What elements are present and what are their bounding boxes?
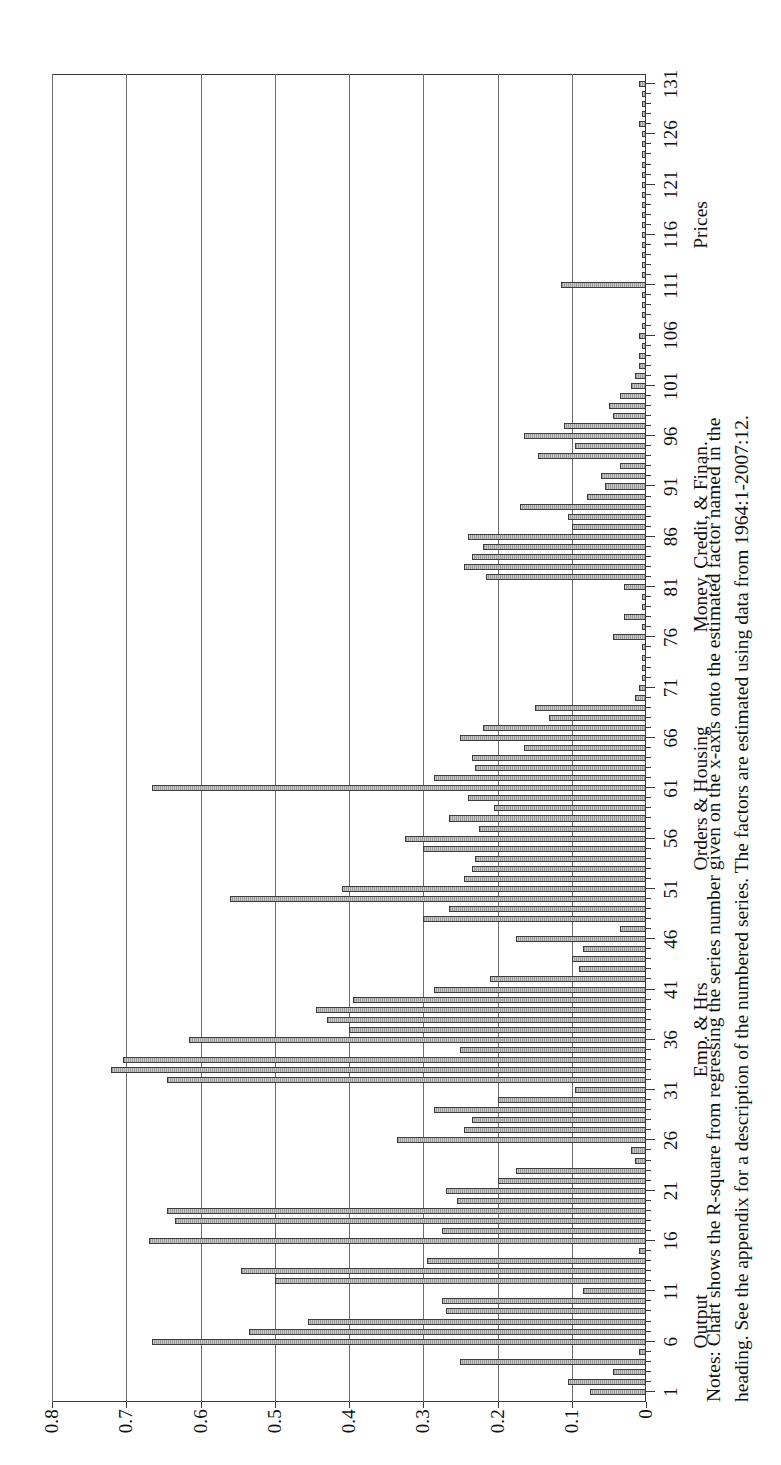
x-tick-mark [646,1270,651,1271]
x-tick-mark [646,496,651,497]
bar [520,504,646,510]
bar [535,705,646,711]
x-tick-label: 6 [660,1337,682,1347]
bar [568,514,646,520]
bar [494,805,646,811]
x-tick-label: 41 [660,980,682,999]
bar [601,473,646,479]
x-tick-mark [646,989,655,990]
bar [149,1238,646,1244]
x-tick-mark [646,1059,651,1060]
bar [613,1369,646,1375]
x-tick-label: 1 [660,1387,682,1397]
x-tick-mark [646,435,655,436]
y-tick-mark [498,1402,499,1408]
x-tick-mark [646,154,651,155]
x-tick-label: 11 [660,1282,682,1300]
x-tick-mark [646,948,651,949]
x-tick-label: 26 [660,1131,682,1150]
x-tick-mark [646,757,651,758]
x-tick-mark [646,254,651,255]
x-tick-mark [646,1351,651,1352]
x-tick-mark [646,1280,651,1281]
x-tick-label: 126 [660,120,682,149]
rotated-figure: 00.10.20.30.40.50.60.70.8 16111621263136… [0,0,781,1465]
x-tick-mark [646,445,651,446]
x-tick-mark [646,1210,651,1211]
bar [442,1228,646,1234]
bar [464,1127,646,1133]
x-tick-mark [646,365,651,366]
bar-series [52,74,646,1402]
bar [475,765,646,771]
x-tick-mark [646,1371,651,1372]
x-tick-mark [646,596,651,597]
x-tick-mark [646,325,651,326]
y-tick-mark [572,1402,573,1408]
x-tick-mark [646,1250,651,1251]
x-tick-mark [646,294,651,295]
axis-baseline [645,74,646,1402]
x-tick-mark [646,516,651,517]
x-tick-mark [646,506,651,507]
x-tick-mark [646,314,651,315]
bar [472,755,646,761]
x-tick-mark [646,999,651,1000]
x-tick-mark [646,908,651,909]
bar [468,534,646,540]
bar [434,1107,646,1113]
x-tick-mark [646,174,651,175]
y-tick-label: 0.1 [561,1409,583,1433]
bar [575,1087,646,1093]
y-tick-mark [275,1402,276,1408]
bar [524,745,647,751]
y-tick-label: 0.8 [41,1409,63,1433]
bar [613,413,646,419]
x-tick-label: 21 [660,1181,682,1200]
x-tick-mark [646,556,651,557]
x-tick-mark [646,375,651,376]
x-tick-mark [646,687,655,688]
x-tick-mark [646,667,651,668]
x-tick-label: 61 [660,779,682,798]
x-tick-mark [646,1240,655,1241]
x-tick-mark [646,164,651,165]
x-tick-label: 106 [660,321,682,350]
bar [472,1117,646,1123]
x-tick-mark [646,1139,655,1140]
x-tick-mark [646,787,655,788]
x-tick-mark [646,646,651,647]
x-tick-mark [646,838,655,839]
x-tick-mark [646,1049,651,1050]
x-tick-mark [646,928,651,929]
x-tick-mark [646,807,651,808]
bar [167,1208,646,1214]
x-tick-label: 51 [660,879,682,898]
bar [620,926,646,932]
y-tick-label: 0.2 [487,1409,509,1433]
x-tick-mark [646,697,651,698]
bar [590,1389,646,1395]
x-tick-mark [646,234,655,235]
bar [405,836,646,842]
x-tick-label: 31 [660,1081,682,1100]
bar [423,916,646,922]
bar [397,1137,646,1143]
bar [457,1198,646,1204]
x-tick-label: 101 [660,372,682,401]
x-tick-label: 116 [660,221,682,249]
bar [111,1067,646,1073]
bar [483,544,646,550]
x-tick-mark [646,194,651,195]
bar [460,1047,646,1053]
bar [434,775,646,781]
bar [624,614,646,620]
x-tick-mark [646,707,651,708]
bar [353,997,646,1003]
bar [308,1319,646,1325]
x-tick-label: 76 [660,628,682,647]
x-tick-mark [646,1019,651,1020]
x-tick-mark [646,797,651,798]
x-tick-mark [646,345,651,346]
bar [561,282,646,288]
